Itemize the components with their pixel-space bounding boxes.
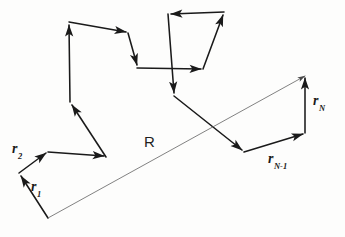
bond-vector-r2 [19, 153, 46, 173]
label-rN-minus-1-base: r [268, 151, 273, 166]
chain-diagram-svg [0, 0, 345, 237]
bond-vector-r6 [69, 22, 126, 32]
label-r2-base: r [12, 141, 17, 156]
bond-vector-r8 [137, 68, 201, 69]
bond-vector-r9 [203, 15, 223, 69]
bond-vector-r3 [48, 152, 104, 156]
bond-vector-r12 [174, 96, 242, 150]
label-r2-sub: 2 [18, 151, 22, 161]
chain-bond-vectors [19, 12, 305, 218]
label-r1-base: r [31, 179, 36, 194]
label-r1: r1 [31, 178, 41, 197]
label-r1-sub: 1 [37, 189, 41, 199]
label-rN-minus-1: rN-1 [268, 150, 287, 169]
bond-vector-r11 [168, 14, 174, 93]
label-rN-sub: N [319, 103, 325, 113]
label-rN: rN [313, 92, 325, 111]
label-rN-minus-1-sub: N-1 [274, 161, 287, 171]
label-rN-base: r [313, 93, 318, 108]
bond-vector-r5 [69, 25, 70, 102]
bond-vector-r4 [72, 105, 106, 157]
bond-vector-r10 [171, 12, 224, 14]
label-r2: r2 [12, 140, 22, 159]
polymer-chain-figure: r1 r2 rN rN-1 R [0, 0, 345, 237]
label-resultant-R: R [144, 134, 155, 149]
bond-vector-r7 [128, 33, 137, 65]
